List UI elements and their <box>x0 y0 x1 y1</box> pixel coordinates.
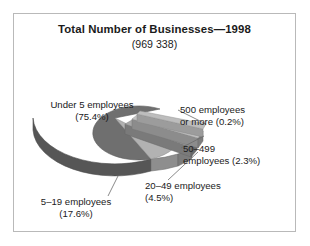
label-20-49-line1: 20–49 employees <box>145 180 221 192</box>
label-under-5-employees-pct: (75.4%) <box>38 111 146 123</box>
label-500-employees-or-more: 500 employees or more (0.2%) <box>180 104 245 127</box>
leader-line-5-19 <box>108 176 118 196</box>
label-50-499-line1: 50–499 <box>183 143 260 155</box>
label-under-5-employees-text: Under 5 employees <box>38 99 146 111</box>
label-20-49-employees: 20–49 employees (4.5%) <box>145 180 221 203</box>
label-50-499-employees: 50–499 employees (2.3%) <box>183 143 260 166</box>
label-5-19-line2: (17.6%) <box>24 208 128 220</box>
label-500-employees-line1: 500 employees <box>180 104 245 116</box>
label-500-employees-line2: or more (0.2%) <box>180 116 245 128</box>
label-50-499-line2: employees (2.3%) <box>183 155 260 167</box>
label-5-19-employees: 5–19 employees (17.6%) <box>24 196 128 219</box>
label-20-49-line2: (4.5%) <box>145 192 221 204</box>
label-under-5-employees: Under 5 employees (75.4%) <box>38 99 146 122</box>
pie-chart-figure: Total Number of Businesses—1998 (969 338… <box>0 0 310 246</box>
label-5-19-line1: 5–19 employees <box>24 196 128 208</box>
